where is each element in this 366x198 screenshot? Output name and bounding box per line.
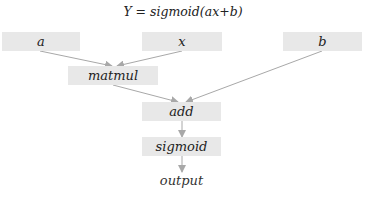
node-b: b [283, 32, 362, 51]
edges [0, 0, 366, 198]
node-sigmoid: sigmoid [142, 137, 221, 156]
node-add: add [142, 102, 221, 121]
edge-x-matmul [117, 51, 182, 66]
node-x: x [142, 32, 222, 51]
node-matmul: matmul [68, 66, 158, 85]
edge-matmul-add [113, 85, 178, 102]
edge-a-matmul [40, 51, 112, 66]
edge-b-add [186, 51, 322, 102]
node-a: a [2, 32, 80, 51]
node-output: output [142, 173, 221, 188]
